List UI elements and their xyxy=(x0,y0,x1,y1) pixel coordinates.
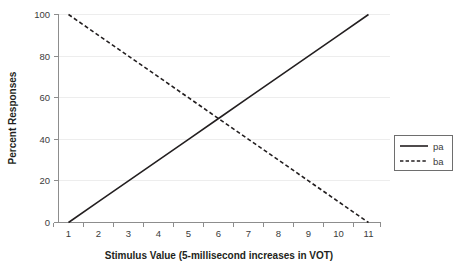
x-tick-label-6: 6 xyxy=(216,228,221,239)
y-tick-label-20: 20 xyxy=(39,175,50,186)
x-tick-label-11: 11 xyxy=(364,228,374,239)
x-tick-labels: 1 2 3 4 5 6 7 8 9 10 11 xyxy=(66,228,374,239)
x-axis-title: Stimulus Value (5-millisecond increases … xyxy=(105,250,333,261)
y-tick-marks xyxy=(54,15,58,223)
y-tick-labels: 100 80 60 40 20 0 xyxy=(34,9,50,228)
x-tick-label-5: 5 xyxy=(186,228,191,239)
x-tick-label-9: 9 xyxy=(306,228,311,239)
x-tick-label-3: 3 xyxy=(126,228,131,239)
y-tick-label-100: 100 xyxy=(34,9,50,20)
y-tick-label-0: 0 xyxy=(45,217,50,228)
y-tick-label-80: 80 xyxy=(39,51,50,62)
legend-box xyxy=(395,136,453,171)
data-series xyxy=(69,15,369,223)
x-tick-marks xyxy=(54,223,381,228)
x-tick-label-7: 7 xyxy=(246,228,251,239)
chart-legend[interactable]: pa ba xyxy=(395,136,453,171)
x-tick-label-2: 2 xyxy=(96,228,101,239)
x-tick-label-4: 4 xyxy=(156,228,161,239)
y-axis-title: Percent Responses xyxy=(7,71,18,164)
legend-label-ba: ba xyxy=(433,156,444,167)
gridlines xyxy=(58,15,390,181)
y-tick-label-40: 40 xyxy=(39,134,50,145)
chart-figure: 100 80 60 40 20 0 1 2 3 4 xyxy=(0,0,463,268)
x-tick-label-8: 8 xyxy=(276,228,281,239)
x-tick-label-1: 1 xyxy=(66,228,71,239)
y-tick-label-60: 60 xyxy=(39,92,50,103)
legend-label-pa: pa xyxy=(433,141,444,152)
line-chart-canvas: 100 80 60 40 20 0 1 2 3 4 xyxy=(0,0,463,268)
x-tick-label-10: 10 xyxy=(333,228,344,239)
